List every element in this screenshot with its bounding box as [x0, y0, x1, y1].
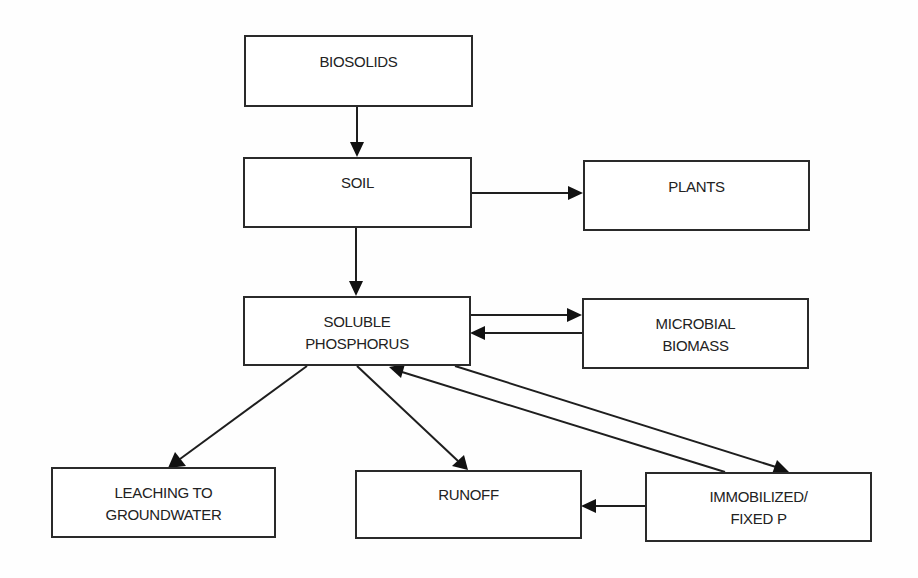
edge-immobilized-to-runoff [581, 499, 645, 513]
node-biosolids: BIOSOLIDS [244, 35, 473, 107]
edge-soluble-to-microbial [470, 308, 582, 322]
node-label: SOIL [245, 172, 470, 194]
phosphorus-flow-diagram: BIOSOLIDS SOIL PLANTS SOLUBLE PHOSPHORUS… [0, 0, 918, 578]
node-label: SOLUBLE PHOSPHORUS [245, 311, 469, 355]
node-microbial-biomass: MICROBIAL BIOMASS [582, 298, 809, 369]
arrowhead-icon [349, 281, 363, 296]
node-label: LEACHING TO GROUNDWATER [53, 482, 274, 526]
arrowhead-icon [568, 186, 583, 200]
node-label: PLANTS [585, 176, 808, 198]
arrowhead-icon [581, 499, 596, 513]
arrowhead-icon [389, 364, 405, 378]
node-leaching-to-groundwater: LEACHING TO GROUNDWATER [51, 467, 276, 538]
node-runoff: RUNOFF [355, 470, 582, 539]
node-label: MICROBIAL BIOMASS [584, 313, 807, 357]
node-plants: PLANTS [583, 160, 810, 231]
node-soil: SOIL [243, 157, 472, 228]
arrowhead-icon [168, 452, 186, 468]
edge-biosolids-to-soil [350, 106, 364, 157]
node-label: IMMOBILIZED/ FIXED P [647, 486, 870, 530]
edge-immobilized-to-soluble [389, 364, 725, 472]
arrowhead-icon [567, 308, 582, 322]
node-immobilized-fixed-p: IMMOBILIZED/ FIXED P [645, 472, 872, 542]
node-label: RUNOFF [357, 484, 580, 506]
node-label: BIOSOLIDS [246, 51, 471, 73]
edge-soluble-to-leaching [168, 366, 307, 468]
node-soluble-phosphorus: SOLUBLE PHOSPHORUS [243, 296, 471, 366]
arrowhead-icon [470, 326, 485, 340]
edge-soil-to-plants [471, 186, 583, 200]
edge-soil-to-soluble-phosphorus [349, 227, 363, 296]
edge-soluble-to-runoff [357, 366, 468, 470]
arrowhead-icon [350, 142, 364, 157]
edge-soluble-to-immobilized [455, 366, 789, 474]
edge-microbial-to-soluble [470, 326, 582, 340]
